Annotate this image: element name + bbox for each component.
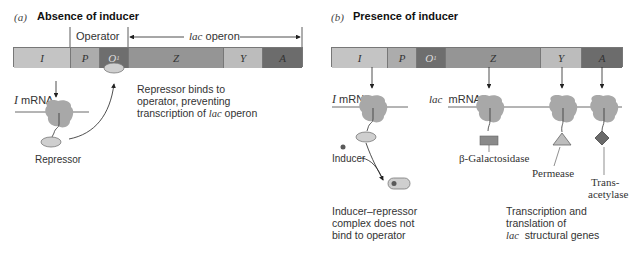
ribosome-z bbox=[476, 95, 504, 131]
diagram-graphics bbox=[0, 0, 639, 255]
repressor-icon bbox=[41, 137, 61, 147]
inducer-to-complex-arrow bbox=[362, 158, 383, 180]
ribosome-a bbox=[590, 95, 618, 131]
inducer-repressor-complex-icon bbox=[388, 178, 410, 189]
transacetylase-icon bbox=[595, 131, 609, 145]
permease-icon bbox=[553, 133, 571, 145]
permease-leader bbox=[554, 147, 560, 166]
ribosome-i-b bbox=[359, 95, 387, 131]
repressor-icon-b bbox=[356, 132, 376, 142]
beta-galactosidase-icon bbox=[480, 136, 498, 145]
repressor-binding-arrow bbox=[69, 84, 114, 139]
bound-inducer-icon bbox=[392, 181, 397, 186]
inducer-icon bbox=[341, 145, 346, 150]
ribosome-y bbox=[549, 95, 577, 132]
bound-repressor-icon bbox=[104, 63, 124, 73]
